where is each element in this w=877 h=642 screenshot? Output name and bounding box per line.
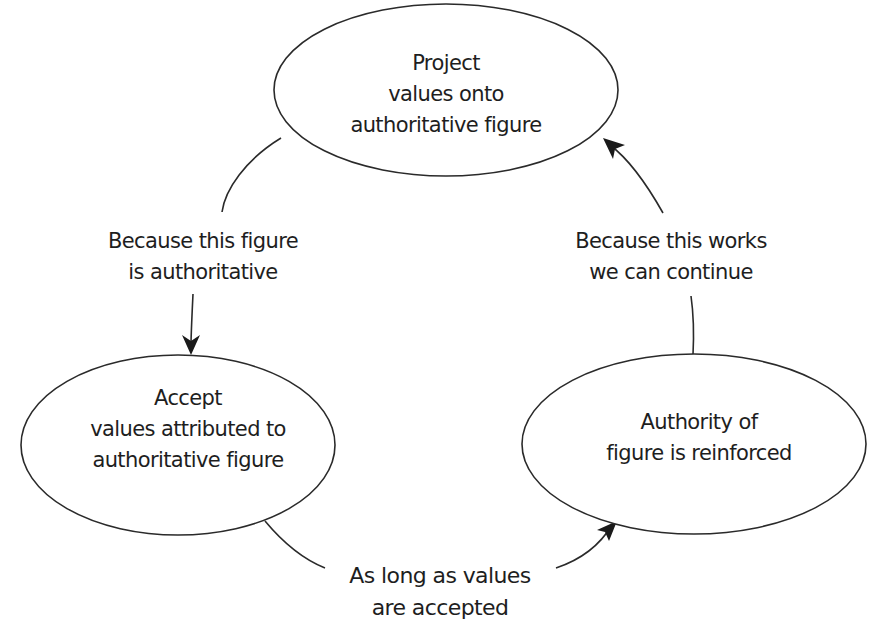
node-project-line-1: Project [346, 48, 546, 79]
edge-accept-to-reinforce-left [265, 521, 325, 568]
edge-project-to-accept-lower [191, 294, 193, 345]
node-accept-line-1: Accept [68, 383, 308, 414]
edge-reinforce-to-project-lower [691, 296, 693, 355]
node-project-label: Project values onto authoritative figure [346, 48, 546, 141]
node-accept-line-3: authoritative figure [68, 445, 308, 476]
edge-accept-to-reinforce-line-2: are accepted [320, 592, 560, 624]
edge-reinforce-to-project-line-2: we can continue [556, 257, 786, 288]
node-accept-label: Accept values attributed to authoritativ… [68, 383, 308, 476]
edge-reinforce-to-project-line-1: Because this works [556, 226, 786, 257]
edge-accept-to-reinforce-line-1: As long as values [320, 560, 560, 592]
edge-reinforce-to-project-upper [610, 145, 663, 213]
node-project-line-2: values onto [346, 79, 546, 110]
node-accept-line-2: values attributed to [68, 414, 308, 445]
edge-project-to-accept-label: Because this figure is authoritative [88, 226, 318, 288]
node-project-line-3: authoritative figure [346, 110, 546, 141]
edge-accept-to-reinforce-label: As long as values are accepted [320, 560, 560, 624]
node-reinforce-label: Authority of figure is reinforced [594, 407, 804, 469]
edge-reinforce-to-project-label: Because this works we can continue [556, 226, 786, 288]
node-reinforce-line-1: Authority of [594, 407, 804, 438]
node-reinforce-line-2: figure is reinforced [594, 438, 804, 469]
edge-project-to-accept-line-1: Because this figure [88, 226, 318, 257]
edge-project-to-accept-line-2: is authoritative [88, 257, 318, 288]
edge-project-to-accept-upper [222, 138, 281, 212]
